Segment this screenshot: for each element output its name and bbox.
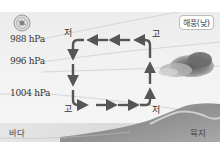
isobar-label-996: 996 hPa: [10, 56, 45, 66]
low-pressure-lower-right: 저: [152, 103, 160, 116]
isobar-label-1004: 1004 hPa: [10, 88, 50, 98]
low-pressure-upper-left: 저: [64, 26, 72, 39]
isobar-label-988: 988 hPa: [10, 34, 45, 44]
sun-icon: [14, 15, 30, 31]
high-pressure-upper-right: 고: [152, 27, 160, 40]
high-pressure-lower-left: 고: [64, 102, 72, 115]
land-label: 육지: [190, 126, 206, 138]
sea-label: 바다: [9, 126, 25, 138]
cloud: [158, 52, 214, 77]
sea-breeze-diagram: 988 hPa 996 hPa 1004 hPa 저 고 고 저 해풍(낮) 바…: [0, 12, 220, 142]
sea-breeze-day-badge: 해풍(낮): [179, 15, 214, 30]
diagram-graphics: [0, 12, 220, 142]
